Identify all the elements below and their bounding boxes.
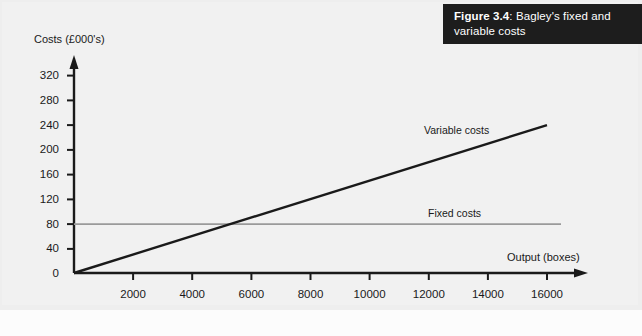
y-tick-label-160: 160 xyxy=(22,168,59,180)
y-tick-label-0: 0 xyxy=(22,267,59,279)
x-tick-label-10000: 10000 xyxy=(340,288,400,300)
y-tick-label-200: 200 xyxy=(22,143,59,155)
x-tick-label-6000: 6000 xyxy=(221,288,281,300)
x-tick-label-4000: 4000 xyxy=(162,288,222,300)
y-axis-title: Costs (£000's) xyxy=(34,33,105,45)
x-tick-label-12000: 12000 xyxy=(399,288,459,300)
y-axis xyxy=(70,55,79,273)
y-tick-label-80: 80 xyxy=(22,218,59,230)
x-tick-label-2000: 2000 xyxy=(103,288,163,300)
y-tick-label-120: 120 xyxy=(22,193,59,205)
y-tick-label-320: 320 xyxy=(22,69,59,81)
series-line-variable-costs xyxy=(74,125,547,273)
series-annotation-fixed-costs: Fixed costs xyxy=(428,207,481,219)
x-axis-title: Output (boxes) xyxy=(507,251,580,263)
y-tick-label-40: 40 xyxy=(22,242,59,254)
x-axis xyxy=(74,269,588,278)
x-tick-label-14000: 14000 xyxy=(458,288,518,300)
chart-canvas xyxy=(0,0,642,336)
x-tick-label-16000: 16000 xyxy=(517,288,577,300)
figure-3-4: Figure 3.4: Bagley's fixed and variable … xyxy=(0,0,642,336)
x-tick-label-8000: 8000 xyxy=(281,288,341,300)
series-annotation-variable-costs: Variable costs xyxy=(424,124,489,136)
y-tick-label-240: 240 xyxy=(22,119,59,131)
y-tick-label-280: 280 xyxy=(22,94,59,106)
